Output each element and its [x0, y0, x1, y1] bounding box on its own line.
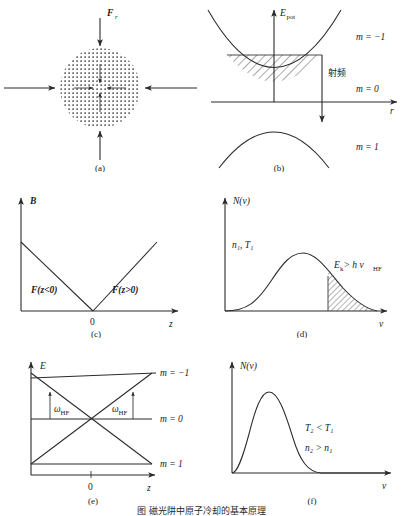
panel-caption-a: (a) — [95, 163, 105, 172]
origin-label-e: 0 — [88, 482, 93, 492]
x-axis-label-e: z — [146, 483, 151, 493]
y-axis-label-f: N(v) — [239, 361, 257, 372]
field-line-right — [93, 242, 157, 311]
omega-label-left-e-sub: HF — [61, 409, 70, 416]
density-label-f: n₂ > n₁ — [305, 443, 332, 453]
x-axis-label-f: v — [382, 481, 387, 491]
figure-bottom-caption: 图 磁光阱中原子冷却的基本原理 — [0, 504, 403, 516]
m-label-lower-b: m = 1 — [356, 142, 379, 152]
force-label-left-c: F(z<0) — [30, 285, 58, 296]
origin-label-c: 0 — [90, 317, 95, 327]
panel-d: N(v) v n₁, T₁ E k > h ν HF (d) — [201, 180, 403, 338]
m-label-upper-b: m = −1 — [356, 32, 385, 42]
energy-cut-label-d-rest: > h ν — [344, 260, 365, 270]
m-label-lower-e: m = 1 — [160, 459, 183, 469]
atom-cloud — [60, 48, 140, 128]
panel-f: N(v) v T₂ < T₁ n₂ > n₁ (f) — [201, 340, 403, 514]
force-label-right-c: F(z>0) — [111, 285, 139, 296]
panel-caption-d: (d) — [297, 329, 308, 338]
zeeman-line-upper — [31, 373, 156, 378]
y-axis-label-e: E — [39, 361, 46, 371]
m-label-middle-e: m = 0 — [160, 414, 183, 424]
rf-label: 射频 — [328, 67, 346, 78]
temperature-label-f: T₂ < T₁ — [305, 423, 333, 433]
y-axis-label-b: E — [279, 8, 286, 18]
panel-caption-c: (c) — [91, 329, 101, 338]
x-axis-label-c: z — [168, 319, 173, 329]
panel-a: F r (a) — [0, 0, 201, 172]
omega-label-right-e-sub: HF — [119, 409, 128, 416]
y-axis-label-d: N(v) — [232, 196, 250, 207]
state-label-d: n₁, T₁ — [232, 240, 253, 250]
energy-cut-label-d: E — [333, 260, 340, 270]
field-line-left — [21, 242, 93, 311]
energy-cut-label-d-rest-sub: HF — [373, 265, 382, 272]
y-axis-label-b-sub: pot — [287, 13, 296, 20]
panel-b: E pot r 射频 m = −1 m = 0 m = 1 (b) — [201, 0, 403, 172]
y-axis-label-c: B — [29, 196, 36, 206]
panel-e: E z 0 ω HF ω HF m = −1 m = 0 m = 1 (e) — [0, 340, 201, 514]
force-label-a: F — [106, 8, 114, 18]
m-label-upper-e: m = −1 — [160, 368, 189, 378]
force-label-a-sub: r — [115, 13, 118, 20]
m-label-middle-b: m = 0 — [356, 84, 379, 94]
panel-caption-b: (b) — [274, 163, 285, 172]
x-axis-label-d: v — [379, 319, 384, 329]
panel-c: B z 0 F(z<0) F(z>0) (c) — [0, 180, 201, 338]
x-axis-label-b: r — [390, 106, 394, 116]
